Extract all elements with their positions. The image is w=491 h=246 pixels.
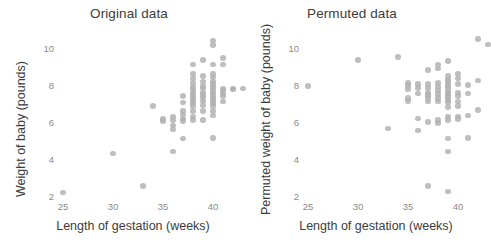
data-point (200, 57, 206, 63)
data-point (415, 116, 421, 122)
data-point (160, 118, 166, 124)
data-point (200, 73, 206, 79)
data-point (395, 54, 401, 60)
data-point (180, 118, 186, 124)
data-point (445, 136, 451, 142)
data-point (425, 99, 431, 105)
data-point (190, 108, 196, 114)
data-point (385, 126, 391, 132)
data-point (415, 91, 421, 97)
data-point (220, 62, 226, 68)
data-point (220, 99, 226, 105)
data-point (455, 116, 461, 122)
data-point (230, 87, 236, 93)
data-point (465, 82, 471, 88)
scatter-plot-area (245, 0, 489, 246)
data-point (150, 103, 156, 109)
data-point (485, 42, 491, 48)
data-point (180, 93, 186, 99)
data-point (475, 36, 481, 42)
x-axis-label: Length of gestation (weeks) (245, 219, 489, 233)
data-point (355, 57, 361, 63)
data-point (445, 117, 451, 123)
data-point (190, 117, 196, 123)
data-point (140, 183, 146, 189)
data-point (60, 190, 66, 196)
data-point (475, 107, 481, 113)
data-point (445, 149, 451, 155)
data-point (435, 99, 441, 105)
data-point (425, 67, 431, 73)
data-point (170, 127, 176, 133)
data-point (210, 135, 216, 141)
data-point (210, 62, 216, 68)
data-point (465, 91, 471, 97)
data-point (405, 98, 411, 104)
data-point (415, 128, 421, 134)
data-point (305, 83, 311, 89)
data-point (200, 117, 206, 123)
data-point (455, 103, 461, 109)
panel-original-data: Original data Weight of baby (pounds) 24… (0, 0, 244, 246)
data-point (180, 136, 186, 142)
x-axis-label: Length of gestation (weeks) (0, 219, 244, 233)
data-point (170, 149, 176, 155)
data-point (465, 113, 471, 119)
data-point (220, 55, 226, 61)
data-point (435, 66, 441, 72)
data-point (110, 151, 116, 157)
data-point (415, 85, 421, 91)
data-point (455, 81, 461, 87)
data-point (200, 108, 206, 114)
data-point (210, 113, 216, 119)
data-point (475, 78, 481, 84)
data-point (405, 87, 411, 93)
data-point (465, 135, 471, 141)
data-point (445, 104, 451, 110)
data-point (425, 183, 431, 189)
y-axis-label: Permuted weight of baby (pounds) (259, 24, 273, 215)
data-point (210, 42, 216, 48)
scatter-plot-area (0, 0, 244, 246)
data-point (190, 62, 196, 68)
data-point (445, 189, 451, 195)
data-point (180, 100, 186, 106)
data-point (425, 119, 431, 125)
panel-permuted-data: Permuted data 246810 25303540 Length of … (245, 0, 489, 246)
data-point (435, 120, 441, 126)
data-point (445, 58, 451, 64)
